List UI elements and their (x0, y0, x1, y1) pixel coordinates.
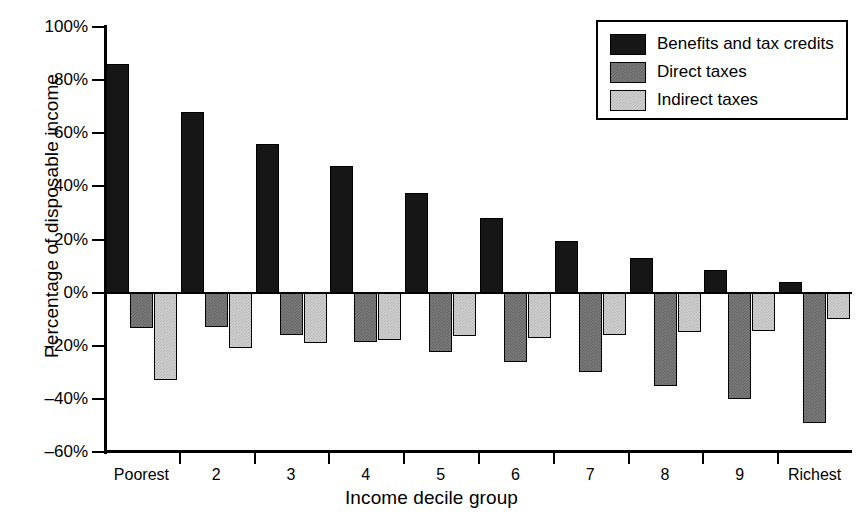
legend-item: Benefits and tax credits (610, 30, 846, 58)
bar-benefits (630, 258, 653, 293)
x-axis-tick-label: 2 (179, 466, 254, 484)
bar-benefits (480, 218, 503, 292)
x-axis-tick (403, 453, 405, 464)
bar-direct (205, 293, 228, 328)
x-axis-tick-label: 8 (628, 466, 703, 484)
bar-indirect (304, 293, 327, 343)
bar-direct (803, 293, 826, 423)
bar-indirect (154, 293, 177, 381)
y-axis-tick-label: 40% (16, 177, 88, 194)
bar-indirect (378, 293, 401, 341)
legend-label-direct: Direct taxes (657, 62, 747, 82)
legend-label-indirect: Indirect taxes (657, 90, 758, 110)
x-axis-tick-label: 3 (254, 466, 329, 484)
bar-indirect (603, 293, 626, 336)
bar-indirect (453, 293, 476, 337)
legend-item: Direct taxes (610, 58, 846, 86)
bar-indirect (528, 293, 551, 338)
x-axis-tick (254, 453, 256, 464)
y-axis-tick-label: –40% (16, 390, 88, 407)
bar-benefits (256, 144, 279, 293)
x-axis-tick (777, 453, 779, 464)
x-axis-tick (179, 453, 181, 464)
legend-swatch-direct (610, 62, 646, 83)
chart-legend: Benefits and tax credits Direct taxes In… (596, 20, 848, 120)
bar-direct (280, 293, 303, 336)
bar-direct (654, 293, 677, 386)
x-axis-tick-label: Poorest (104, 466, 179, 484)
bar-benefits (330, 166, 353, 292)
y-axis-tick-label: 100% (16, 18, 88, 35)
x-axis-tick-label: 9 (702, 466, 777, 484)
y-axis-tick-label: –20% (16, 337, 88, 354)
y-axis-tick-label: 60% (16, 124, 88, 141)
legend-swatch-benefits (610, 34, 646, 55)
bar-indirect (827, 293, 850, 320)
x-axis-title: Income decile group (0, 487, 863, 509)
bar-indirect (752, 293, 775, 332)
bar-benefits (106, 64, 129, 292)
bar-benefits (555, 241, 578, 293)
x-axis-tick-label: 6 (478, 466, 553, 484)
legend-swatch-indirect (610, 90, 646, 111)
x-axis-tick-label: 4 (328, 466, 403, 484)
bar-indirect (678, 293, 701, 333)
legend-label-benefits: Benefits and tax credits (657, 34, 834, 54)
bar-direct (728, 293, 751, 399)
x-axis-tick-label: Richest (777, 466, 852, 484)
x-axis-tick (328, 453, 330, 464)
legend-item: Indirect taxes (610, 86, 846, 114)
x-axis-tick (702, 453, 704, 464)
x-axis-tick (478, 453, 480, 464)
bar-benefits (704, 270, 727, 293)
y-axis-tick-label: 20% (16, 231, 88, 248)
x-axis-tick (628, 453, 630, 464)
zero-baseline (104, 292, 852, 294)
bar-direct (504, 293, 527, 362)
bar-benefits (405, 193, 428, 293)
x-axis-tick-label: 5 (403, 466, 478, 484)
y-axis-tick-label: –60% (16, 443, 88, 460)
bar-direct (579, 293, 602, 373)
x-axis-tick (553, 453, 555, 464)
y-axis-tick-label: 80% (16, 71, 88, 88)
bar-benefits (181, 112, 204, 293)
y-axis-tick-label: 0% (16, 284, 88, 301)
bar-chart: Percentage of disposable income Income d… (0, 0, 863, 518)
bar-direct (354, 293, 377, 342)
bar-direct (429, 293, 452, 353)
bar-direct (130, 293, 153, 329)
bar-indirect (229, 293, 252, 349)
x-axis-tick-label: 7 (553, 466, 628, 484)
